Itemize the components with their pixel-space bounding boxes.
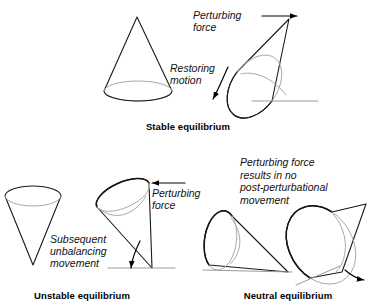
tilted-cone-hidden-base-arc <box>237 55 282 101</box>
lying-cone-left-body <box>204 211 288 272</box>
caption-neutral-equilibrium: Neutral equilibrium <box>244 290 332 301</box>
annotation-line: motion <box>170 74 202 86</box>
tilted-cone-body <box>227 19 289 118</box>
caption-stable-equilibrium: Stable equilibrium <box>146 121 230 132</box>
annotation-line: Perturbing force <box>240 156 315 168</box>
upright-cone-front-base-arc <box>104 81 172 91</box>
annotation-line: movement <box>50 257 100 269</box>
lying-cone-left-hidden-rim <box>209 216 237 270</box>
tilted-cone <box>227 19 289 118</box>
annotation-line: Perturbing <box>193 9 242 21</box>
annotation-line: unbalancing <box>50 245 107 257</box>
annotation-perturbing-force-unstable: Perturbing force <box>152 187 201 211</box>
upright-cone-body <box>104 17 172 101</box>
lying-cone-left-inner-arc <box>230 218 240 264</box>
lying-cone-left-base-rim <box>204 211 232 265</box>
annotation-perturbing-force-stable: Perturbing force <box>193 9 242 33</box>
rolling-motion-arrow-icon <box>345 270 364 280</box>
annotation-perturbing-force-no-movement: Perturbing force results in no post-pert… <box>239 156 328 206</box>
equilibrium-diagram: Perturbing force Restoring motion Stable… <box>0 0 374 305</box>
panel-stable-equilibrium: Perturbing force Restoring motion Stable… <box>104 9 318 132</box>
upright-cone <box>104 17 172 101</box>
lying-cone-left <box>204 211 288 272</box>
panel-neutral-equilibrium: Perturbing force results in no post-pert… <box>203 156 366 301</box>
annotation-subsequent-unbalancing-movement: Subsequent unbalancing movement <box>50 233 107 269</box>
inverted-cone-front-rim <box>5 196 61 206</box>
tilted-inverted-cone-inner-arc <box>100 196 146 216</box>
annotation-line: Perturbing <box>152 187 201 199</box>
panel-unstable-equilibrium: Subsequent unbalancing movement Perturbi… <box>5 179 201 301</box>
lying-cone-right-base-rim <box>286 206 332 278</box>
tilted-cone-base-rim <box>227 72 272 118</box>
annotation-line: force <box>152 199 176 211</box>
tilted-inverted-cone-hidden-rim <box>97 183 150 211</box>
annotation-line: Restoring <box>170 62 215 74</box>
annotation-line: movement <box>240 194 290 206</box>
tilted-cone-inner-arc <box>241 73 286 95</box>
annotation-line: Subsequent <box>50 233 107 245</box>
upright-cone-hidden-base-arc <box>104 91 172 101</box>
annotation-line: results in no <box>240 169 297 181</box>
caption-unstable-equilibrium: Unstable equilibrium <box>34 290 130 301</box>
unbalancing-movement-arrow-icon <box>131 241 140 268</box>
restoring-motion-arrow-icon <box>213 67 228 99</box>
annotation-line: force <box>193 21 217 33</box>
annotation-line: post-perturbational <box>239 181 328 193</box>
annotation-restoring-motion: Restoring motion <box>170 62 215 86</box>
